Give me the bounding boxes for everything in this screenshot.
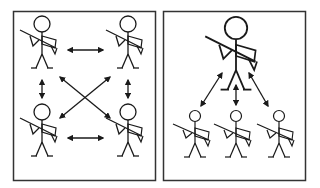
subordinate-right-icon [257, 111, 294, 158]
soldier-bottom-left-icon [20, 104, 57, 156]
hierarchy-network-panel [164, 12, 306, 181]
subordinate-left-icon [173, 111, 210, 158]
soldier-bottom-right-icon [106, 104, 143, 156]
link-leader-left-arrow [201, 73, 222, 106]
link-leader-right-arrow [249, 73, 268, 106]
soldier-top-right-icon [106, 16, 143, 68]
subordinate-center-icon [214, 111, 251, 158]
soldier-top-left-icon [20, 16, 57, 68]
diagram-canvas [0, 0, 320, 188]
peer-network-panel [14, 12, 156, 181]
leader-soldier-icon [205, 17, 257, 90]
